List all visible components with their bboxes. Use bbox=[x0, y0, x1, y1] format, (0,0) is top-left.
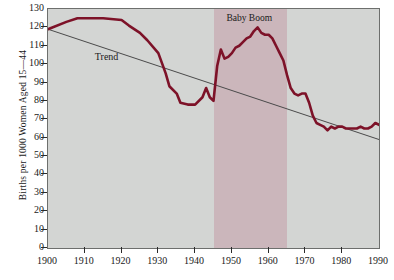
x-tick-1990: 1990 bbox=[358, 256, 394, 266]
y-tick-mark-100 bbox=[41, 63, 47, 64]
trend-label: Trend bbox=[95, 52, 119, 62]
y-tick-mark-10 bbox=[41, 229, 47, 230]
x-tick-mark-1930 bbox=[157, 247, 158, 253]
x-tick-mark-1910 bbox=[84, 247, 85, 253]
x-tick-1900: 1900 bbox=[27, 256, 67, 266]
x-tick-mark-1940 bbox=[194, 247, 195, 253]
x-tick-1950: 1950 bbox=[211, 256, 251, 266]
birth-rate-chart: Births per 1000 Women Aged 15—44 0102030… bbox=[0, 0, 394, 280]
y-tick-mark-120 bbox=[41, 26, 47, 27]
x-tick-1970: 1970 bbox=[284, 256, 324, 266]
chart-lines bbox=[48, 9, 379, 248]
x-tick-1930: 1930 bbox=[137, 256, 177, 266]
x-tick-1940: 1940 bbox=[174, 256, 214, 266]
x-tick-mark-1980 bbox=[341, 247, 342, 253]
x-tick-1960: 1960 bbox=[248, 256, 288, 266]
x-tick-mark-1960 bbox=[268, 247, 269, 253]
x-tick-mark-1950 bbox=[231, 247, 232, 253]
x-tick-1980: 1980 bbox=[321, 256, 361, 266]
y-tick-mark-90 bbox=[41, 82, 47, 83]
baby-boom-label: Baby Boom bbox=[213, 13, 287, 23]
y-tick-mark-50 bbox=[41, 155, 47, 156]
y-tick-mark-40 bbox=[41, 173, 47, 174]
y-tick-mark-0 bbox=[41, 247, 47, 248]
x-tick-1920: 1920 bbox=[101, 256, 141, 266]
y-tick-mark-30 bbox=[41, 192, 47, 193]
y-tick-mark-80 bbox=[41, 100, 47, 101]
plot-area bbox=[47, 8, 380, 249]
y-tick-mark-60 bbox=[41, 137, 47, 138]
x-tick-1910: 1910 bbox=[64, 256, 104, 266]
y-tick-130: 130 bbox=[22, 3, 44, 13]
birth-rate-line bbox=[48, 18, 379, 130]
y-axis-tick-labels: 0102030405060708090100110120130 bbox=[19, 0, 44, 280]
x-tick-mark-1920 bbox=[121, 247, 122, 253]
x-tick-mark-1970 bbox=[304, 247, 305, 253]
y-tick-mark-110 bbox=[41, 45, 47, 46]
y-tick-mark-70 bbox=[41, 118, 47, 119]
trend-line bbox=[48, 29, 379, 139]
y-tick-mark-20 bbox=[41, 210, 47, 211]
